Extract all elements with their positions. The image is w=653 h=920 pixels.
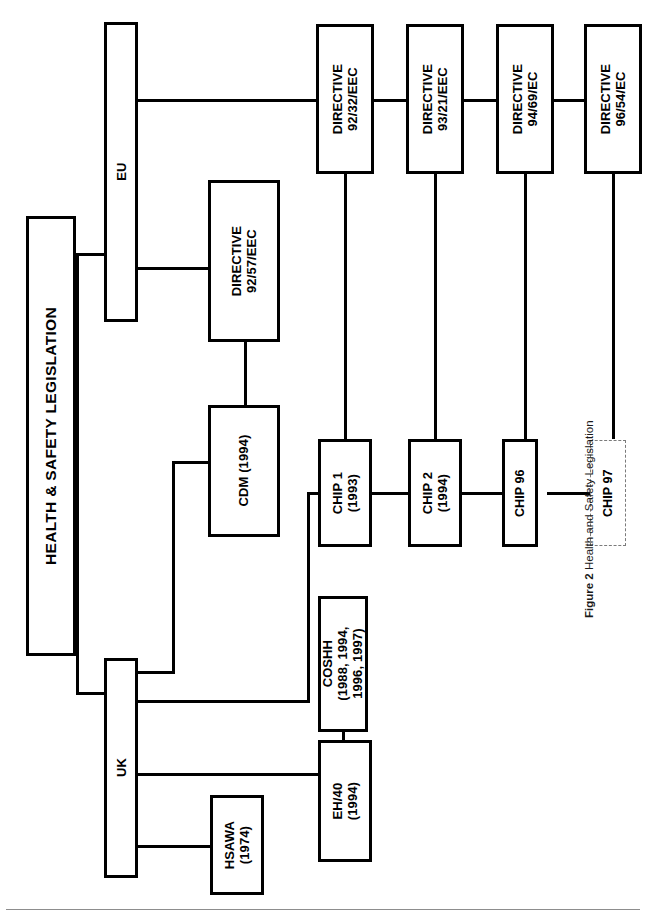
node-coshh[interactable]: COSHH(1988, 1994,1996, 1997)	[318, 596, 368, 732]
node-chip-96[interactable]: CHIP 96	[502, 439, 538, 547]
node-label: HEALTH & SAFETY LEGISLATION	[42, 307, 60, 565]
node-label: CHIP 97	[601, 469, 616, 517]
edge-chip2-chip96	[462, 492, 502, 495]
node-uk[interactable]: UK	[104, 658, 138, 878]
node-hsawa-1974[interactable]: HSAWA(1974)	[210, 795, 264, 895]
edge-dir9232-dir9321	[374, 99, 406, 102]
edge-eu-dir9257	[138, 267, 208, 270]
edge-root-trunk	[76, 253, 79, 695]
node-eh-40-1994[interactable]: EH/40(1994)	[318, 740, 372, 862]
node-label: HSAWA(1974)	[222, 821, 252, 869]
edge-cdm-elbow-v	[172, 461, 175, 674]
edge-dir9321-chip2	[434, 174, 437, 439]
node-label: EH/40(1994)	[330, 782, 360, 820]
edge-uk-cdm	[138, 671, 175, 674]
edge-dir9469-chip96	[524, 174, 527, 439]
node-label: DIRECTIVE92/57/EEC	[229, 226, 259, 296]
edge-uk-eh40	[138, 773, 320, 776]
node-cdm-1994[interactable]: CDM (1994)	[208, 405, 280, 537]
node-directive-93-21-eec[interactable]: DIRECTIVE93/21/EEC	[406, 24, 464, 174]
node-chip-1-1993[interactable]: CHIP 1(1993)	[318, 439, 372, 547]
node-directive-96-54-ec[interactable]: DIRECTIVE96/54/EC	[584, 24, 642, 174]
node-eu[interactable]: EU	[104, 22, 138, 322]
node-label: DIRECTIVE94/69/EC	[510, 64, 540, 134]
node-label: COSHH(1988, 1994,1996, 1997)	[320, 627, 365, 701]
figure-number: Figure 2	[583, 573, 595, 618]
figure-canvas: HEALTH & SAFETY LEGISLATION EU UK DIRECT…	[0, 0, 653, 920]
node-chip-97[interactable]: CHIP 97	[590, 440, 626, 546]
node-label: DIRECTIVE92/32/EEC	[330, 64, 360, 134]
edge-dir9232-chip1	[344, 174, 347, 439]
node-label: CHIP 1(1993)	[330, 472, 360, 514]
edge-dir9257-cdm	[244, 342, 247, 405]
edge-uk-chip1-v	[307, 492, 310, 703]
edge-eu-dir9232	[138, 99, 316, 102]
node-label: CHIP 96	[513, 469, 528, 517]
edge-uk-chip1-h	[138, 700, 310, 703]
edge-dir9654-chip97	[612, 174, 615, 439]
node-health-safety-legislation[interactable]: HEALTH & SAFETY LEGISLATION	[26, 216, 76, 656]
node-label: DIRECTIVE93/21/EEC	[420, 64, 450, 134]
node-directive-92-32-eec[interactable]: DIRECTIVE92/32/EEC	[316, 24, 374, 174]
node-label: CHIP 2(1994)	[420, 472, 450, 514]
edge-dir9321-dir9469	[464, 99, 496, 102]
node-directive-92-57-eec[interactable]: DIRECTIVE92/57/EEC	[208, 180, 280, 342]
edge-root-uk	[76, 692, 104, 695]
edge-cdm-elbow-h	[172, 461, 208, 464]
node-label: CDM (1994)	[236, 435, 251, 507]
node-label: UK	[113, 759, 128, 778]
figure-title: Health and Safety Legislation	[583, 420, 595, 570]
node-label: EU	[113, 163, 128, 181]
node-directive-94-69-ec[interactable]: DIRECTIVE94/69/EC	[496, 24, 554, 174]
node-label: DIRECTIVE96/54/EC	[598, 64, 628, 134]
edge-dir9469-dir9654	[554, 99, 584, 102]
edge-root-eu	[76, 253, 104, 256]
node-chip-2-1994[interactable]: CHIP 2(1994)	[408, 439, 462, 547]
edge-chip1-chip2	[372, 492, 410, 495]
page-divider-rule	[6, 909, 640, 910]
figure-caption: Figure 2 Health and Safety Legislation	[583, 318, 595, 618]
edge-uk-hsawa	[138, 845, 210, 848]
